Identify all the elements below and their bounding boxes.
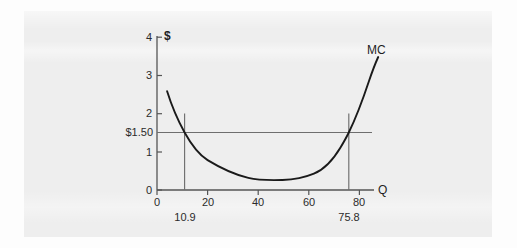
marginal-cost-curve (167, 57, 378, 180)
x-axis-title: Q (378, 183, 387, 197)
figure-container: $ Q MC 4 3 2 1 0 $1.50 0 20 40 60 80 10.… (0, 0, 517, 248)
y-axis-title: $ (164, 29, 171, 43)
y-axis-ticks (157, 37, 162, 190)
y-tick-label-3: 3 (140, 70, 152, 81)
x-tick-label-80: 80 (348, 197, 370, 208)
y-tick-label-4: 4 (140, 32, 152, 43)
chart-plot-area: $ Q MC (0, 0, 517, 248)
price-axis-label: $1.50 (113, 127, 153, 138)
y-tick-label-1: 1 (140, 147, 152, 158)
x-tick-label-20: 20 (197, 197, 219, 208)
y-tick-label-0: 0 (140, 185, 152, 196)
x-axis-ticks (157, 190, 359, 195)
left-quantity-label: 10.9 (168, 212, 202, 223)
x-tick-label-0: 0 (147, 197, 167, 208)
x-tick-label-60: 60 (298, 197, 320, 208)
mc-curve-label: MC (367, 43, 386, 57)
y-tick-label-2: 2 (140, 108, 152, 119)
x-tick-label-40: 40 (247, 197, 269, 208)
right-quantity-label: 75.8 (332, 212, 366, 223)
